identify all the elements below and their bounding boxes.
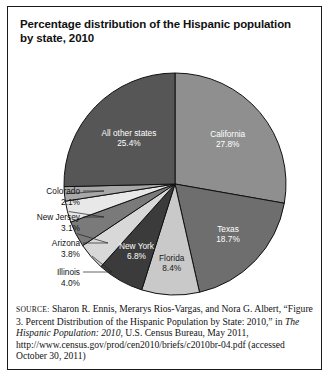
outer-label-name: Illinois — [24, 267, 80, 278]
pie-label-florida: Florida8.4% — [159, 253, 185, 273]
outer-label-name: New Jersey — [6, 212, 80, 223]
source-line3-post: , U.S. Census Bureau, May — [120, 327, 224, 338]
source-line1: Sharon R. Ennis, Merarys Rios-Vargas, an… — [49, 303, 281, 314]
source-label: SOURCE: — [16, 305, 49, 314]
outer-label-value: 3.1% — [6, 223, 80, 234]
source-line3-pre: 2010,” in — [247, 316, 285, 327]
pie-outer-label-arizona: Arizona 3.8% — [18, 238, 80, 259]
outer-label-value: 4.0% — [24, 278, 80, 289]
pie-label-texas: Texas18.7% — [216, 224, 240, 244]
pie-outer-label-new-jersey: New Jersey 3.1% — [6, 212, 80, 233]
outer-label-name: Arizona — [18, 238, 80, 249]
source-note: SOURCE: Sharon R. Ennis, Merarys Rios-Va… — [16, 303, 314, 362]
outer-label-value: 3.8% — [18, 249, 80, 260]
pie-outer-label-colorado: Colorado 2.1% — [12, 186, 80, 207]
figure-container: Percentage distribution of the Hispanic … — [0, 0, 329, 377]
outer-label-value: 2.1% — [12, 197, 80, 208]
pie-outer-label-illinois: Illinois 4.0% — [24, 267, 80, 288]
outer-label-name: Colorado — [12, 186, 80, 197]
